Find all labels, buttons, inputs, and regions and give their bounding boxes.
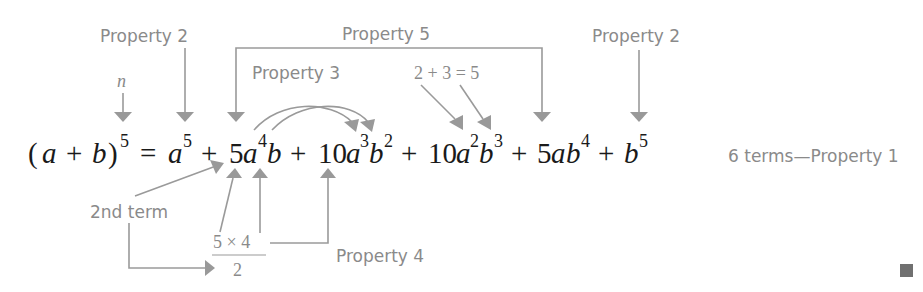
property-2-right-label: Property 2 bbox=[592, 26, 680, 46]
property-4-arrow-icon bbox=[270, 168, 336, 243]
term-1-a: a bbox=[168, 137, 183, 169]
n-arrow-icon bbox=[114, 93, 132, 122]
term-5-b: b bbox=[566, 137, 581, 169]
term-5-b-exp: 4 bbox=[581, 131, 590, 151]
term-4-coef: 10 bbox=[428, 137, 457, 169]
term-4-b-exp: 3 bbox=[494, 131, 503, 151]
term-6-b-exp: 5 bbox=[639, 131, 648, 151]
property-4-label: Property 4 bbox=[336, 246, 424, 266]
property-2-left-arrow-icon bbox=[176, 48, 194, 122]
lhs-open-paren: ( bbox=[28, 137, 38, 170]
term-3-a-exp: 3 bbox=[360, 131, 369, 151]
property-2-left-label: Property 2 bbox=[100, 26, 188, 46]
property-3-curved-arrows-icon bbox=[254, 106, 375, 132]
property-5-bracket-arrow-icon bbox=[227, 48, 551, 122]
plus-2: + bbox=[290, 137, 306, 169]
six-terms-label: 6 terms—Property 1 bbox=[728, 146, 899, 166]
term-5-a: a bbox=[551, 137, 566, 169]
property-5-label: Property 5 bbox=[342, 24, 430, 44]
term-1-a-exp: 5 bbox=[183, 131, 192, 151]
term-4-a: a bbox=[456, 137, 471, 169]
lhs-exponent: 5 bbox=[120, 131, 129, 151]
lhs-close-paren: ) bbox=[108, 137, 118, 170]
term-2-b: b bbox=[267, 137, 282, 169]
lhs-b: b bbox=[92, 137, 107, 169]
term-2-coef: 5 bbox=[229, 137, 244, 169]
binomial-equation: ( a + b ) 5 = a 5 + 5 a 4 b + 10 a 3 b 2… bbox=[28, 131, 648, 170]
term-5-coef: 5 bbox=[537, 137, 552, 169]
fraction-numerator: 5 × 4 bbox=[213, 232, 250, 252]
end-marker-square bbox=[900, 264, 913, 277]
property-3-label: Property 3 bbox=[252, 63, 340, 83]
plus-5: + bbox=[598, 137, 614, 169]
second-term-fraction-arrow-icon bbox=[129, 223, 215, 276]
lhs-a: a bbox=[42, 137, 57, 169]
n-label: n bbox=[117, 71, 126, 91]
property-2-right-arrow-icon bbox=[630, 50, 648, 122]
plus-3: + bbox=[401, 137, 417, 169]
term-4-a-exp: 2 bbox=[470, 131, 479, 151]
term-3-coef: 10 bbox=[318, 137, 347, 169]
term-4-b: b bbox=[479, 137, 494, 169]
second-term-label: 2nd term bbox=[90, 202, 168, 222]
term-3-a: a bbox=[346, 137, 361, 169]
numerator-four-arrow-icon bbox=[252, 168, 268, 233]
fraction-denominator: 2 bbox=[233, 260, 242, 280]
numerator-five-arrow-icon bbox=[220, 168, 242, 232]
term-6-b: b bbox=[624, 137, 639, 169]
lhs-plus: + bbox=[66, 137, 82, 169]
term-3-b: b bbox=[369, 137, 384, 169]
term-3-b-exp: 2 bbox=[384, 131, 393, 151]
plus-4: + bbox=[511, 137, 527, 169]
term-2-a-exp: 4 bbox=[258, 131, 267, 151]
equals-sign: = bbox=[140, 137, 156, 169]
term-2-a: a bbox=[243, 137, 258, 169]
sum-arrows-icon bbox=[421, 85, 491, 130]
binomial-diagram: Property 2 Property 5 Property 2 Propert… bbox=[0, 0, 923, 292]
sum-label: 2 + 3 = 5 bbox=[414, 63, 479, 83]
